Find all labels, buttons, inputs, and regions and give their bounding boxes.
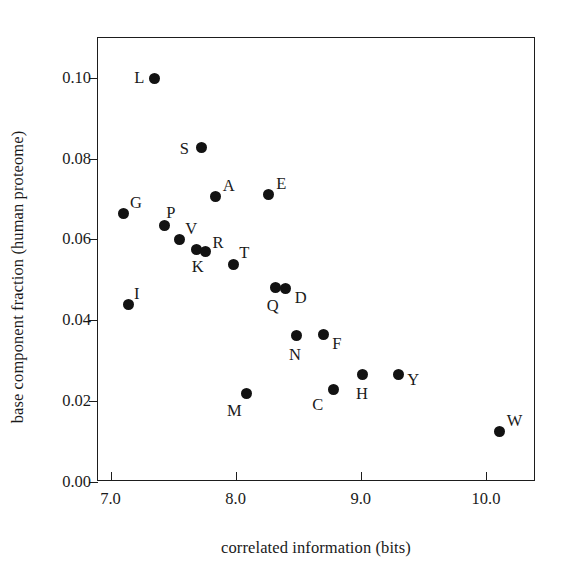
data-point-label-G: G (130, 195, 142, 212)
y-tick-label: 0.04 (62, 310, 91, 330)
x-tick-label: 10.0 (472, 489, 501, 509)
data-point-L[interactable] (149, 73, 160, 84)
y-tick-label: 0.06 (62, 229, 91, 249)
data-point-S[interactable] (196, 142, 207, 153)
data-point-W[interactable] (494, 426, 505, 437)
data-point-H[interactable] (357, 369, 368, 380)
data-point-M[interactable] (241, 388, 252, 399)
data-point-label-L: L (134, 70, 144, 87)
data-point-label-I: I (134, 286, 140, 303)
scatter-plot-figure: base component fraction (human proteome)… (0, 0, 565, 572)
data-point-T[interactable] (228, 259, 239, 270)
data-point-label-A: A (223, 178, 235, 195)
data-point-N[interactable] (291, 330, 302, 341)
y-axis-label: base component fraction (human proteome) (0, 55, 36, 499)
data-point-label-W: W (507, 413, 523, 430)
data-point-G[interactable] (118, 208, 129, 219)
data-point-label-V: V (185, 221, 197, 238)
data-point-D[interactable] (280, 283, 291, 294)
data-point-I[interactable] (123, 299, 134, 310)
data-point-label-F: F (332, 336, 341, 353)
x-tick-label: 8.0 (225, 489, 246, 509)
data-point-E[interactable] (263, 189, 274, 200)
data-point-P[interactable] (159, 220, 170, 231)
x-tick-mark (486, 472, 487, 481)
y-tick-label: 0.10 (62, 68, 91, 88)
data-point-label-D: D (295, 290, 307, 307)
data-point-label-C: C (312, 397, 323, 414)
data-point-A[interactable] (210, 191, 221, 202)
data-point-label-H: H (356, 386, 368, 403)
data-point-V[interactable] (174, 234, 185, 245)
data-point-label-S: S (180, 141, 189, 158)
y-tick-label: 0.00 (62, 472, 91, 492)
data-point-label-E: E (276, 176, 286, 193)
x-tick-label: 9.0 (350, 489, 371, 509)
data-point-label-T: T (239, 245, 249, 262)
data-point-label-Q: Q (267, 298, 279, 315)
data-point-F[interactable] (318, 329, 329, 340)
data-point-label-P: P (166, 205, 175, 222)
x-axis-label: correlated information (bits) (97, 538, 535, 558)
x-tick-mark (361, 472, 362, 481)
data-point-Y[interactable] (393, 369, 404, 380)
x-tick-mark (111, 472, 112, 481)
x-tick-mark (236, 472, 237, 481)
y-tick-label: 0.02 (62, 391, 91, 411)
x-tick-label: 7.0 (100, 489, 121, 509)
data-point-label-N: N (289, 347, 301, 364)
data-point-R[interactable] (200, 246, 211, 257)
data-point-label-K: K (192, 259, 204, 276)
data-point-label-R: R (213, 235, 224, 252)
data-point-C[interactable] (328, 384, 339, 395)
data-point-label-Y: Y (407, 372, 419, 389)
y-tick-label: 0.08 (62, 149, 91, 169)
data-point-label-M: M (227, 403, 242, 420)
plot-area: 0.000.020.040.060.080.10 7.08.09.010.0 L… (97, 37, 535, 481)
